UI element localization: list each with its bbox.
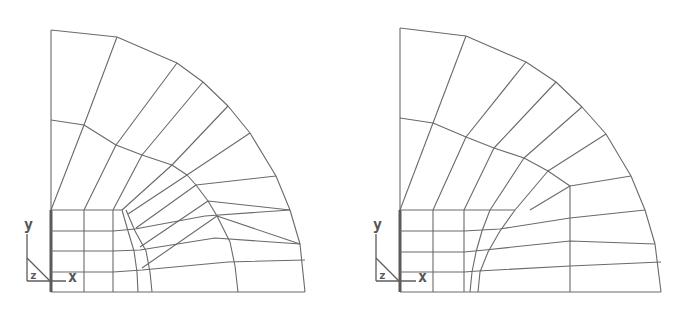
row-line (113, 238, 300, 251)
axis-z-label: z (379, 269, 386, 282)
inner-curve (126, 210, 152, 292)
radial-line (464, 82, 556, 210)
right-mesh: yxz (373, 28, 661, 292)
radial-line (433, 62, 526, 210)
outer-arc (51, 30, 305, 292)
radial-line (530, 176, 631, 210)
radial-line (128, 133, 250, 214)
figure-canvas: yxz yxz (0, 0, 692, 318)
axis-x-label: x (418, 268, 427, 286)
axis-x-label: x (68, 268, 77, 286)
axis-z-label: z (30, 269, 37, 282)
axis-y-label: y (373, 216, 382, 234)
row-line (113, 260, 305, 272)
radial-line (51, 37, 117, 210)
row-line (464, 262, 661, 272)
row-line (113, 210, 290, 231)
row-line (464, 210, 645, 231)
inner-curve (478, 210, 515, 292)
axis-y-label: y (24, 216, 33, 234)
radial-line (84, 63, 177, 210)
radial-line (515, 134, 606, 210)
left-mesh: yxz (24, 30, 305, 292)
row-line (464, 241, 655, 252)
radial-line (400, 36, 466, 210)
